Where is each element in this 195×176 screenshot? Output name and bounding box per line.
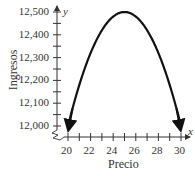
x-tick-label: 20 xyxy=(61,145,72,156)
y-tick-label: 12,100 xyxy=(0,97,49,108)
y-tick-label: 12,400 xyxy=(0,29,49,40)
x-axis-title: Precio xyxy=(108,158,139,170)
y-tick-label: 12,500 xyxy=(0,6,49,17)
y-axis-title: Ingresos xyxy=(7,45,19,95)
axis-break-icon xyxy=(52,130,64,140)
x-tick-label: 22 xyxy=(84,145,95,156)
y-tick-label: 12,000 xyxy=(0,120,49,131)
revenue-curve xyxy=(69,12,180,121)
x-tick-label: 24 xyxy=(106,145,117,156)
x-tick-label: 30 xyxy=(174,145,185,156)
x-axis-symbol: x xyxy=(188,126,193,137)
chart-canvas xyxy=(0,0,195,176)
x-tick-label: 28 xyxy=(151,145,162,156)
y-axis-symbol: y xyxy=(63,6,68,17)
x-tick-label: 26 xyxy=(129,145,140,156)
